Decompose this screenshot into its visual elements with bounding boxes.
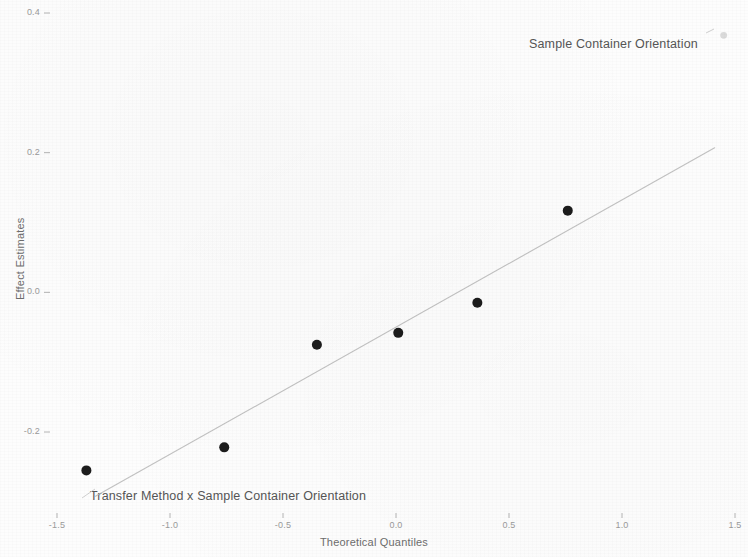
data-point bbox=[312, 340, 322, 350]
data-point bbox=[393, 328, 403, 338]
data-point bbox=[81, 465, 91, 475]
leader-bottom-left bbox=[82, 489, 95, 498]
chart-canvas bbox=[0, 0, 748, 557]
data-point bbox=[563, 206, 573, 216]
leader-top-right bbox=[706, 29, 714, 33]
qq-reference-line bbox=[95, 148, 714, 496]
data-point bbox=[219, 442, 229, 452]
qq-plot-figure bbox=[0, 0, 748, 557]
data-point-faint bbox=[720, 32, 727, 39]
data-point bbox=[472, 298, 482, 308]
